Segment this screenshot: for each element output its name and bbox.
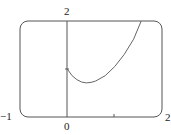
y-max-label: 2 bbox=[64, 6, 70, 17]
plot-frame bbox=[20, 21, 162, 117]
x-min-label: −1 bbox=[0, 111, 12, 122]
x-zero-label: 0 bbox=[64, 121, 70, 132]
x-max-label: 2 bbox=[165, 112, 171, 123]
function-curve bbox=[67, 21, 141, 83]
plot-area bbox=[0, 0, 171, 135]
